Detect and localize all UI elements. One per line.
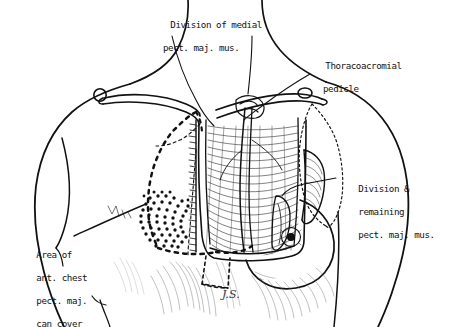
label-thoracoacromial-pedicle: Thoracoacromial pedicle (305, 49, 402, 117)
label-area-line2: ant. chest (36, 272, 87, 283)
leader-line-division-remaining (282, 178, 336, 196)
left-arm-crease (92, 296, 106, 305)
label-division-remaining-line1: Division & (358, 183, 409, 194)
label-division-medial-line1: Division of medial (170, 19, 261, 30)
nipple (288, 234, 295, 241)
label-division-remaining-line3: pect. maj. mus. (358, 229, 434, 240)
label-area-line3: pect. maj. (36, 295, 87, 306)
muscle-fiber-hatching-oblique (206, 126, 286, 256)
stippled-skin-paddle (139, 191, 189, 249)
left-axilla-fold (56, 138, 69, 248)
label-division-medial-line2: pect. maj. mus. (150, 42, 262, 53)
lower-chest-shading (151, 262, 216, 316)
label-division-medial: Division of medial pect. maj. mus. (150, 8, 262, 76)
label-thoracoacromial-line2: pedicle (305, 83, 402, 94)
artist-signature: J.S. (222, 288, 240, 301)
muscle-stump-axillary (272, 196, 290, 250)
label-division-remaining: Division & remaining pect. maj. mus. (338, 172, 435, 252)
label-division-remaining-line2: remaining (358, 206, 404, 217)
illustration-canvas: Division of medial pect. maj. mus. Thora… (0, 0, 451, 327)
label-area-ant-chest: Area of ant. chest pect. maj. can cover (16, 238, 87, 327)
label-area-line4: can cover (36, 318, 82, 327)
dashed-flap-outline-upper (148, 112, 196, 248)
leader-line-area (74, 204, 146, 236)
left-chest-faint-shading (114, 258, 144, 294)
label-thoracoacromial-line1: Thoracoacromial (325, 60, 401, 71)
divided-medial-edge (189, 120, 196, 252)
left-clavicle (104, 95, 200, 116)
label-area-line1: Area of (36, 249, 72, 260)
left-clavicle-lower (103, 102, 199, 124)
